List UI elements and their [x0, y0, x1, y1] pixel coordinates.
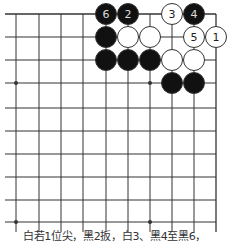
star-point — [148, 220, 152, 224]
black-stone: 4 — [184, 4, 205, 25]
black-stone: 6 — [96, 4, 117, 25]
diagram-caption: 白若1位尖，黑2扳，白3、黑4至黑6， — [0, 230, 229, 244]
black-stone — [140, 50, 161, 71]
move-number: 5 — [191, 31, 198, 44]
black-stone — [118, 50, 139, 71]
move-number: 6 — [103, 8, 110, 21]
black-stone — [96, 27, 117, 48]
white-stone: 1 — [206, 27, 227, 48]
go-board: 623451 — [0, 0, 229, 232]
move-number: 1 — [213, 31, 220, 44]
star-point — [14, 81, 18, 85]
move-number: 3 — [169, 8, 176, 21]
star-point — [148, 81, 152, 85]
white-stone — [162, 50, 183, 71]
white-stone — [184, 50, 205, 71]
black-stone: 2 — [118, 4, 139, 25]
move-number: 2 — [125, 8, 132, 21]
black-stone — [96, 50, 117, 71]
white-stone: 3 — [162, 4, 183, 25]
move-number: 4 — [191, 8, 198, 21]
black-stone — [184, 73, 205, 94]
white-stone — [118, 27, 139, 48]
stones: 623451 — [96, 4, 227, 94]
white-stone: 5 — [184, 27, 205, 48]
black-stone — [162, 73, 183, 94]
white-stone — [140, 27, 161, 48]
star-point — [14, 220, 18, 224]
